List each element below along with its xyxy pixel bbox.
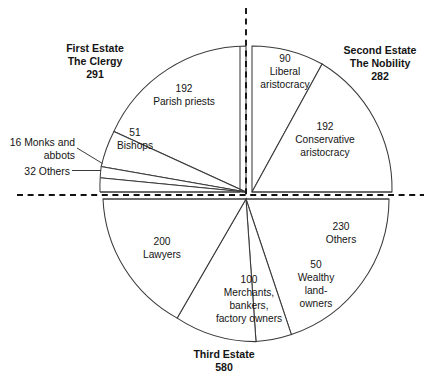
second-estate-total: 282: [371, 70, 389, 82]
liberal-aristocracy-label-1: Liberal: [270, 66, 301, 77]
third-estate-total: 580: [215, 361, 233, 373]
wealthy-landowners-label-3: owners: [300, 298, 333, 309]
leader-line-monks: [77, 148, 103, 164]
first-estate-total: 291: [86, 68, 104, 80]
parish-priests-label: Parish priests: [153, 96, 215, 107]
second-estate-title: Second Estate: [343, 44, 416, 56]
merchants-value: 100: [241, 274, 258, 285]
wealthy-landowners-label-2: land-: [305, 285, 328, 296]
liberal-aristocracy-value: 90: [279, 53, 291, 64]
lawyers-label: Lawyers: [143, 249, 181, 260]
merchants-label-2: bankers,: [229, 300, 268, 311]
second-estate-group: Second Estate The Nobility 282 90 Libera…: [252, 44, 417, 192]
parish-priests-value: 192: [176, 83, 193, 94]
bishops-value: 51: [129, 127, 141, 138]
merchants-label-1: Merchants,: [224, 287, 274, 298]
merchants-label-3: factory owners: [216, 313, 282, 324]
conservative-aristocracy-label-1: Conservative: [295, 134, 355, 145]
first-estate-group: First Estate The Clergy 291 192 Parish p…: [10, 42, 246, 192]
bishops-label: Bishops: [117, 140, 153, 151]
lawyers-value: 200: [154, 236, 171, 247]
first-estate-subtitle: The Clergy: [68, 55, 123, 67]
liberal-aristocracy-label-2: aristocracy: [260, 79, 310, 90]
wealthy-landowners-label-1: Wealthy: [298, 272, 336, 283]
third-estate-title: Third Estate: [193, 348, 254, 360]
chart-svg: First Estate The Clergy 291 192 Parish p…: [0, 0, 434, 388]
conservative-aristocracy-label-2: aristocracy: [300, 147, 350, 158]
third-others-value: 230: [333, 221, 350, 232]
monks-abbots-callout-line2: abbots: [44, 150, 75, 161]
conservative-aristocracy-value: 192: [317, 121, 334, 132]
third-estate-group: 200 Lawyers 100 Merchants, bankers, fact…: [103, 199, 389, 373]
wealthy-landowners-value: 50: [310, 259, 322, 270]
clergy-others-callout: 32 Others: [24, 166, 70, 177]
estates-pie-chart: First Estate The Clergy 291 192 Parish p…: [0, 0, 434, 388]
second-estate-subtitle: The Nobility: [350, 57, 411, 69]
first-estate-title: First Estate: [66, 42, 124, 54]
monks-abbots-callout-line1: 16 Monks and: [10, 137, 75, 148]
third-others-label: Others: [326, 234, 357, 245]
